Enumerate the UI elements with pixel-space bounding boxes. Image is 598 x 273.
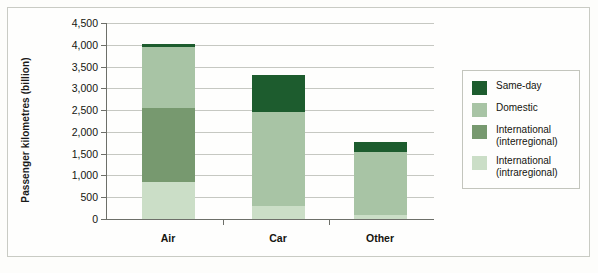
y-axis-tick-label: 1,500: [72, 148, 98, 160]
bar-segment: [142, 108, 195, 183]
y-axis-tick-label: 2,000: [72, 126, 98, 138]
legend-item: International (interregional): [472, 124, 571, 148]
y-axis-title: Passenger kilometres (billion): [20, 57, 31, 202]
bar-segment: [252, 75, 305, 112]
bar-air: [142, 44, 195, 219]
x-axis-tick: [329, 220, 330, 225]
bar-segment: [354, 142, 407, 151]
bar-segment: [252, 112, 305, 206]
y-axis-tick: [101, 110, 107, 111]
y-axis-tick: [101, 154, 107, 155]
bar-segment: [142, 47, 195, 108]
legend-swatch-icon: [472, 125, 487, 139]
legend-item: International (intraregional): [472, 155, 571, 179]
chart-legend: Same-dayDomesticInternational (interregi…: [462, 70, 580, 189]
x-axis-label-car: Car: [269, 232, 287, 244]
y-axis-tick: [101, 67, 107, 68]
bar-segment: [252, 206, 305, 219]
legend-swatch-icon: [472, 81, 487, 95]
y-axis-tick: [101, 175, 107, 176]
plot-area: 05001,0001,5002,0002,5003,0003,5004,0004…: [106, 23, 434, 220]
legend-item-label: International (intraregional): [496, 155, 558, 179]
bar-segment: [142, 44, 195, 46]
y-axis-tick-label: 1,000: [72, 169, 98, 181]
y-axis-title-container: Passenger kilometres (billion): [14, 30, 36, 230]
x-axis-label-other: Other: [366, 232, 394, 244]
y-axis-tick: [101, 197, 107, 198]
x-axis-label-air: Air: [161, 232, 176, 244]
y-axis-tick: [101, 219, 107, 220]
y-axis-tick: [101, 132, 107, 133]
legend-item-label: Domestic: [496, 102, 538, 114]
gridline: [107, 23, 434, 24]
legend-item-label: Same-day: [496, 80, 542, 92]
bar-segment: [354, 215, 407, 219]
y-axis-tick-label: 4,500: [72, 17, 98, 29]
legend-swatch-icon: [472, 103, 487, 117]
legend-swatch-icon: [472, 156, 487, 170]
y-axis-tick: [101, 45, 107, 46]
legend-item-label: International (interregional): [496, 124, 558, 148]
y-axis-tick-label: 2,500: [72, 104, 98, 116]
legend-item: Domestic: [472, 102, 571, 117]
bar-segment: [354, 152, 407, 215]
bar-segment: [142, 182, 195, 219]
x-axis-tick: [223, 220, 224, 225]
bar-car: [252, 75, 305, 219]
y-axis-tick-label: 0: [92, 213, 98, 225]
y-axis-tick: [101, 23, 107, 24]
y-axis-tick-label: 3,500: [72, 61, 98, 73]
y-axis-tick-label: 4,000: [72, 39, 98, 51]
y-axis-tick: [101, 88, 107, 89]
bar-other: [354, 142, 407, 219]
y-axis-tick-label: 500: [80, 191, 98, 203]
y-axis-tick-label: 3,000: [72, 82, 98, 94]
legend-item: Same-day: [472, 80, 571, 95]
chart-figure: Passenger kilometres (billion) 05001,000…: [0, 0, 598, 273]
